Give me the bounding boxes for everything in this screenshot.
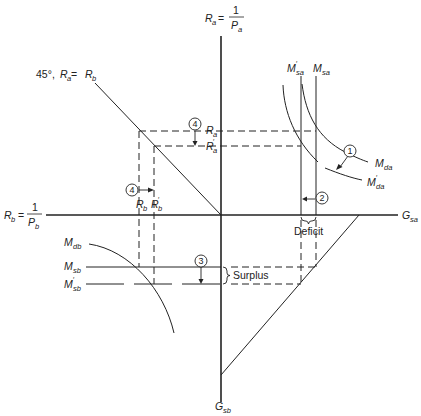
svg-text:M: M — [287, 62, 296, 74]
svg-text:P: P — [28, 216, 35, 228]
svg-text:M: M — [313, 62, 322, 74]
axis-label-rb: R b = 1 P b — [4, 201, 42, 231]
mda-prime-curve — [283, 85, 362, 180]
step-marker-4-left: 4 — [126, 184, 138, 196]
step-marker-2: 2 — [316, 192, 328, 204]
svg-text:sb: sb — [73, 284, 81, 293]
svg-text:sb: sb — [73, 266, 81, 275]
label-msb-prime: M ′ sb — [64, 276, 81, 293]
label-msa: M sa — [313, 62, 330, 77]
mdb-curve — [89, 244, 174, 333]
axis-label-gsa: G sa — [402, 209, 418, 224]
svg-text:1: 1 — [233, 4, 239, 16]
label-msa-prime: M ′ sa — [287, 60, 304, 77]
svg-text:b: b — [11, 215, 15, 224]
svg-text:sa: sa — [296, 68, 304, 77]
mda-curve — [302, 84, 368, 162]
svg-text:′: ′ — [158, 196, 160, 203]
label-mda: M da — [375, 157, 392, 172]
label-ra: R a — [206, 124, 217, 139]
axis-label-ra: R a = 1 P a — [205, 4, 244, 34]
svg-text:b: b — [143, 204, 147, 213]
svg-text:da: da — [384, 163, 392, 172]
label-msb: M sb — [64, 260, 81, 275]
step-marker-4-top: 4 — [189, 118, 201, 130]
svg-text:3: 3 — [198, 256, 203, 266]
svg-text:a: a — [213, 146, 217, 155]
label-mda-prime: M ′ da — [367, 174, 384, 191]
svg-text:M: M — [375, 157, 384, 169]
step-1-arrow — [340, 156, 348, 167]
svg-text:b: b — [158, 204, 162, 213]
svg-text:da: da — [376, 182, 384, 191]
svg-text:G: G — [402, 209, 410, 221]
deficit-label: Deficit — [294, 225, 323, 237]
svg-text:1: 1 — [32, 201, 38, 213]
svg-text:M: M — [64, 236, 73, 248]
arrow-head-down-icon — [199, 279, 204, 284]
svg-text:a: a — [238, 25, 242, 34]
svg-text:1: 1 — [347, 146, 352, 156]
arrow-head-down-icon — [193, 141, 198, 146]
svg-text:sa: sa — [410, 215, 418, 224]
svg-text:=: = — [18, 209, 24, 221]
step-marker-3: 3 — [195, 255, 207, 267]
svg-text:′: ′ — [73, 276, 75, 283]
label-mdb: M db — [64, 236, 81, 251]
svg-text:=: = — [218, 12, 224, 24]
label-rb: R b — [136, 198, 147, 213]
surplus-label: Surplus — [233, 269, 269, 281]
svg-text:′: ′ — [213, 138, 215, 145]
svg-text:M: M — [64, 278, 73, 290]
svg-text:2: 2 — [319, 193, 324, 203]
arrow-head-left-icon — [302, 197, 307, 202]
surplus-brace — [223, 267, 230, 284]
trade-balance-line — [221, 215, 359, 375]
svg-text:db: db — [73, 242, 81, 251]
svg-text:45°,: 45°, — [36, 68, 55, 80]
axis-label-gsb: G sb — [215, 400, 231, 415]
line-45-label: 45°, R a = R b — [36, 68, 96, 83]
svg-text:sa: sa — [322, 68, 330, 77]
svg-text:4: 4 — [129, 185, 134, 195]
svg-text:sb: sb — [223, 406, 231, 415]
svg-text:b: b — [35, 222, 39, 231]
svg-text:M: M — [64, 260, 73, 272]
deficit-brace — [301, 217, 316, 224]
step-marker-1: 1 — [344, 145, 356, 157]
svg-text:M: M — [367, 176, 376, 188]
svg-text:a: a — [212, 18, 216, 27]
svg-text:′: ′ — [376, 174, 378, 181]
label-rb-prime: R ′ b — [151, 196, 162, 213]
svg-text:4: 4 — [192, 119, 197, 129]
svg-text:P: P — [231, 19, 238, 31]
svg-text:G: G — [215, 400, 223, 412]
svg-text:b: b — [92, 74, 96, 83]
diagram-canvas: 1 2 3 4 4 R a = 1 P a R b = 1 P b G sa — [0, 0, 421, 416]
label-ra-prime: R ′ a — [206, 138, 217, 155]
arrow-head-right-icon — [148, 188, 154, 193]
svg-text:=: = — [71, 68, 77, 80]
svg-text:′: ′ — [296, 60, 298, 67]
